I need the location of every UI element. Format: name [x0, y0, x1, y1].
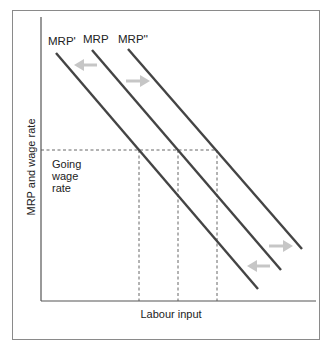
going-wage-rate-line3: rate	[52, 182, 71, 194]
arrow-left-bottom-icon	[247, 260, 270, 272]
label-mrp-double-prime: MRP''	[118, 33, 148, 45]
arrow-right-top-icon	[126, 75, 150, 87]
going-wage-rate-line1: Going	[52, 158, 81, 170]
arrow-right-bottom-icon	[269, 240, 293, 252]
y-axis-label: MRP and wage rate	[25, 118, 37, 215]
curve-mrp-double-prime	[128, 49, 302, 249]
curve-mrp	[92, 50, 281, 270]
x-axis-label: Labour input	[140, 308, 201, 320]
arrow-left-top-icon	[74, 59, 97, 71]
label-mrp: MRP	[83, 33, 109, 45]
label-mrp-prime: MRP'	[48, 35, 76, 47]
curve-mrp-prime	[56, 53, 258, 289]
going-wage-rate-line2: wage	[51, 170, 78, 182]
